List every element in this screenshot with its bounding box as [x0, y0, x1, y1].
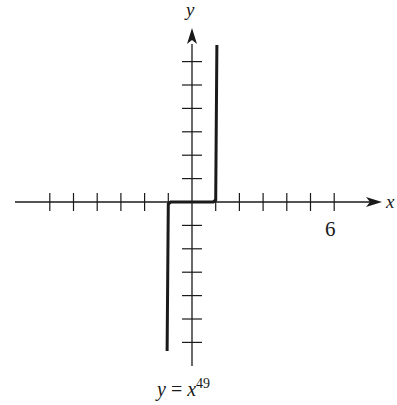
- axes: [15, 28, 382, 366]
- caption: y = x49: [155, 376, 210, 401]
- x-axis-label: x: [385, 191, 395, 212]
- caption-exponent: 49: [196, 376, 210, 391]
- graph: x y 6 y = x49: [0, 0, 397, 405]
- y-axis-label: y: [184, 0, 195, 20]
- x-tick-label-6: 6: [325, 217, 336, 241]
- y-axis-arrow-icon: [187, 28, 197, 44]
